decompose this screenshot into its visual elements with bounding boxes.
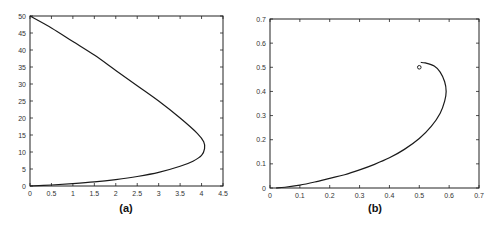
y-tick-label: 45 bbox=[18, 30, 26, 37]
x-tick-label: 0.2 bbox=[325, 192, 335, 199]
y-tick-label: 10 bbox=[18, 149, 26, 156]
x-tick-label: 2.5 bbox=[132, 190, 142, 197]
x-tick-label: 1 bbox=[71, 190, 75, 197]
x-tick-label: 3.5 bbox=[175, 190, 185, 197]
y-tick-label: 40 bbox=[18, 47, 26, 54]
y-tick-label: 0.5 bbox=[256, 64, 266, 71]
y-tick-label: 0.7 bbox=[256, 16, 266, 23]
y-tick-label: 0.6 bbox=[256, 40, 266, 47]
x-tick-label: 0 bbox=[28, 190, 32, 197]
panel-a-label: (a) bbox=[119, 202, 133, 214]
panel-b-label: (b) bbox=[368, 202, 382, 214]
x-tick-label: 0.6 bbox=[444, 192, 454, 199]
x-tick-label: 0.5 bbox=[47, 190, 57, 197]
x-tick-label: 0.1 bbox=[295, 192, 305, 199]
y-tick-label: 5 bbox=[22, 166, 26, 173]
y-tick-label: 0 bbox=[22, 183, 26, 190]
y-tick-label: 35 bbox=[18, 64, 26, 71]
panel-b-chart: 00.10.20.30.40.50.60.700.10.20.30.40.50.… bbox=[256, 16, 484, 200]
y-tick-label: 20 bbox=[18, 115, 26, 122]
y-tick-label: 15 bbox=[18, 132, 26, 139]
y-tick-label: 50 bbox=[18, 13, 26, 20]
start-point-marker bbox=[417, 65, 421, 69]
x-tick-label: 4 bbox=[200, 190, 204, 197]
x-tick-label: 1.5 bbox=[89, 190, 99, 197]
y-tick-label: 0.3 bbox=[256, 112, 266, 119]
x-tick-label: 4.5 bbox=[218, 190, 228, 197]
figure: 00.511.522.533.544.505101520253035404550… bbox=[0, 0, 496, 228]
series-line bbox=[30, 16, 205, 186]
x-tick-label: 2 bbox=[114, 190, 118, 197]
y-tick-label: 0.4 bbox=[256, 88, 266, 95]
x-tick-label: 0 bbox=[268, 192, 272, 199]
y-tick-label: 0.2 bbox=[256, 136, 266, 143]
x-tick-label: 0.5 bbox=[414, 192, 424, 199]
panel-a-chart: 00.511.522.533.544.505101520253035404550 bbox=[18, 13, 228, 198]
x-tick-label: 0.4 bbox=[385, 192, 395, 199]
y-tick-label: 30 bbox=[18, 81, 26, 88]
x-tick-label: 3 bbox=[157, 190, 161, 197]
y-tick-label: 0 bbox=[262, 185, 266, 192]
x-tick-label: 0.7 bbox=[474, 192, 484, 199]
y-tick-label: 25 bbox=[18, 98, 26, 105]
series-line bbox=[276, 62, 446, 188]
plot-frame bbox=[270, 19, 479, 188]
x-tick-label: 0.3 bbox=[355, 192, 365, 199]
y-tick-label: 0.1 bbox=[256, 160, 266, 167]
